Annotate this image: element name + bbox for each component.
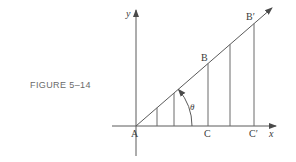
- x-axis-label: x: [268, 128, 274, 139]
- angle-theta-label: θ: [190, 102, 195, 112]
- point-C-prime-label: C′: [249, 128, 258, 139]
- hypotenuse-ray: [136, 8, 272, 126]
- point-C-label: C: [204, 128, 211, 139]
- point-B-prime-label: B′: [246, 11, 255, 22]
- point-B-label: B: [201, 52, 208, 63]
- point-A-label: A: [131, 128, 139, 139]
- similar-triangles-diagram: y x A B B′ C C′ θ: [0, 0, 296, 162]
- y-axis-label: y: [125, 8, 131, 19]
